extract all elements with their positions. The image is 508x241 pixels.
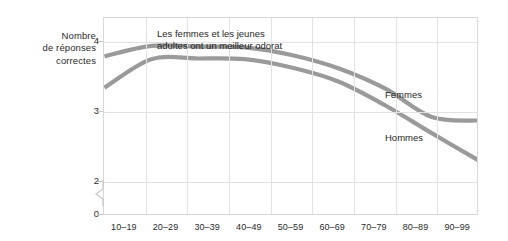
gridline-vertical xyxy=(437,18,438,214)
gridline-horizontal xyxy=(104,112,477,113)
axis-break-icon xyxy=(94,180,108,206)
chart-annotation: Les femmes et les jeunes adultes ont un … xyxy=(157,28,282,53)
y-axis-title-line-3: correctes xyxy=(8,55,96,67)
y-axis-tick-label: 0 xyxy=(69,208,99,219)
series-line-hommes xyxy=(105,57,478,161)
series-label-femmes: Femmes xyxy=(385,89,422,100)
y-axis-tick-label: 3 xyxy=(69,105,99,116)
gridline-vertical xyxy=(354,18,355,214)
gridline-vertical xyxy=(396,18,397,214)
y-axis-tick-mark xyxy=(98,41,103,42)
chart-container: Nombre de réponses correctes 0234 10–192… xyxy=(0,0,508,241)
series-label-hommes: Hommes xyxy=(385,132,423,143)
y-axis-tick-mark xyxy=(98,111,103,112)
gridline-horizontal xyxy=(104,182,477,183)
y-axis-tick-mark xyxy=(98,214,103,215)
gridline-vertical xyxy=(312,18,313,214)
x-axis-tick-label: 90–99 xyxy=(431,222,483,232)
gridline-vertical xyxy=(146,18,147,214)
y-axis-tick-label: 4 xyxy=(69,35,99,46)
